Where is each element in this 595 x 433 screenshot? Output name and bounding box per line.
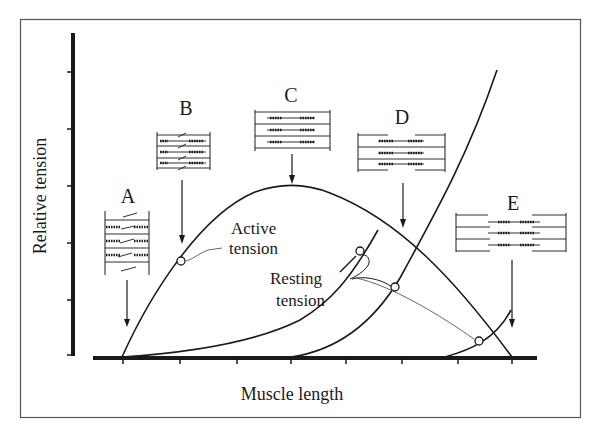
active-tension-pointer (186, 248, 222, 261)
sarcomere-label-e: E (507, 192, 519, 214)
resting-marker-3 (475, 337, 483, 345)
sarcomere-label-a: A (121, 185, 136, 207)
y-axis (67, 33, 73, 356)
resting-tension-curve-3 (445, 310, 511, 357)
sarcomere-label-d: D (395, 106, 409, 128)
resting-label-line2: tension (276, 291, 326, 310)
arrow-b-head (179, 235, 185, 244)
sarcomere-b: B (157, 97, 210, 170)
sarcomere-e: E (456, 192, 566, 252)
active-marker (177, 257, 185, 265)
sarcomere-c: C (255, 84, 330, 151)
resting-marker-1 (356, 247, 364, 255)
length-tension-figure: Relative tension Muscle length Active te… (0, 0, 595, 433)
arrow-a-head (124, 319, 130, 327)
arrow-c-head (289, 175, 295, 184)
arrow-d-head (400, 219, 406, 228)
active-label-line2: tension (229, 239, 279, 258)
sarcomere-label-c: C (284, 84, 297, 106)
sarcomere-label-b: B (179, 97, 192, 119)
x-axis-label: Muscle length (241, 384, 343, 404)
sarcomere-a: A (105, 185, 149, 275)
sarcomere-d: D (358, 106, 445, 172)
resting-label-line1: Resting (270, 269, 322, 288)
active-label-line1: Active (231, 219, 276, 238)
x-axis (93, 358, 537, 364)
arrow-e-head (509, 319, 515, 328)
y-axis-label: Relative tension (30, 138, 50, 254)
resting-marker-2 (391, 283, 399, 291)
